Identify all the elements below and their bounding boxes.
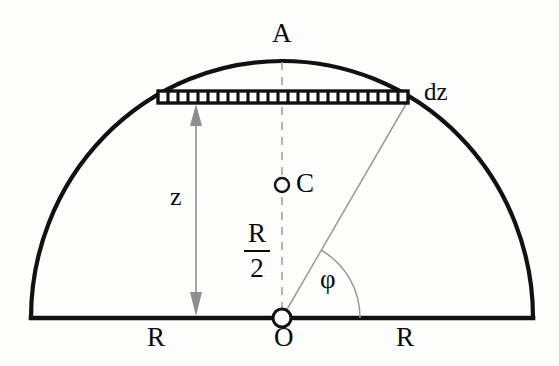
- label-angle-phi: φ: [320, 266, 336, 293]
- radius-line-to-dz: [282, 99, 409, 318]
- hemisphere-diagram-svg: [0, 0, 559, 366]
- label-origin-o: O: [274, 324, 294, 351]
- label-radius-left: R: [147, 324, 165, 351]
- label-half-radius-fraction: R 2: [242, 219, 272, 283]
- fraction-bar: [244, 250, 270, 252]
- dz-band-element: [158, 91, 408, 103]
- centroid-marker-circle: [275, 178, 289, 192]
- fraction-numerator: R: [242, 219, 272, 248]
- label-radius-right: R: [396, 324, 414, 351]
- dz-band-outline: [158, 91, 408, 103]
- label-centroid-c: C: [296, 170, 314, 197]
- z-dimension-arrow: [190, 104, 202, 316]
- z-arrow-head-down: [190, 292, 202, 316]
- label-height-z: z: [170, 184, 182, 210]
- label-apex-a: A: [272, 20, 292, 47]
- fraction-denominator: 2: [242, 254, 272, 283]
- label-dz: dz: [424, 79, 448, 104]
- diagram-canvas: A dz C z φ R O R R 2: [0, 0, 559, 366]
- z-arrow-head-up: [190, 104, 202, 126]
